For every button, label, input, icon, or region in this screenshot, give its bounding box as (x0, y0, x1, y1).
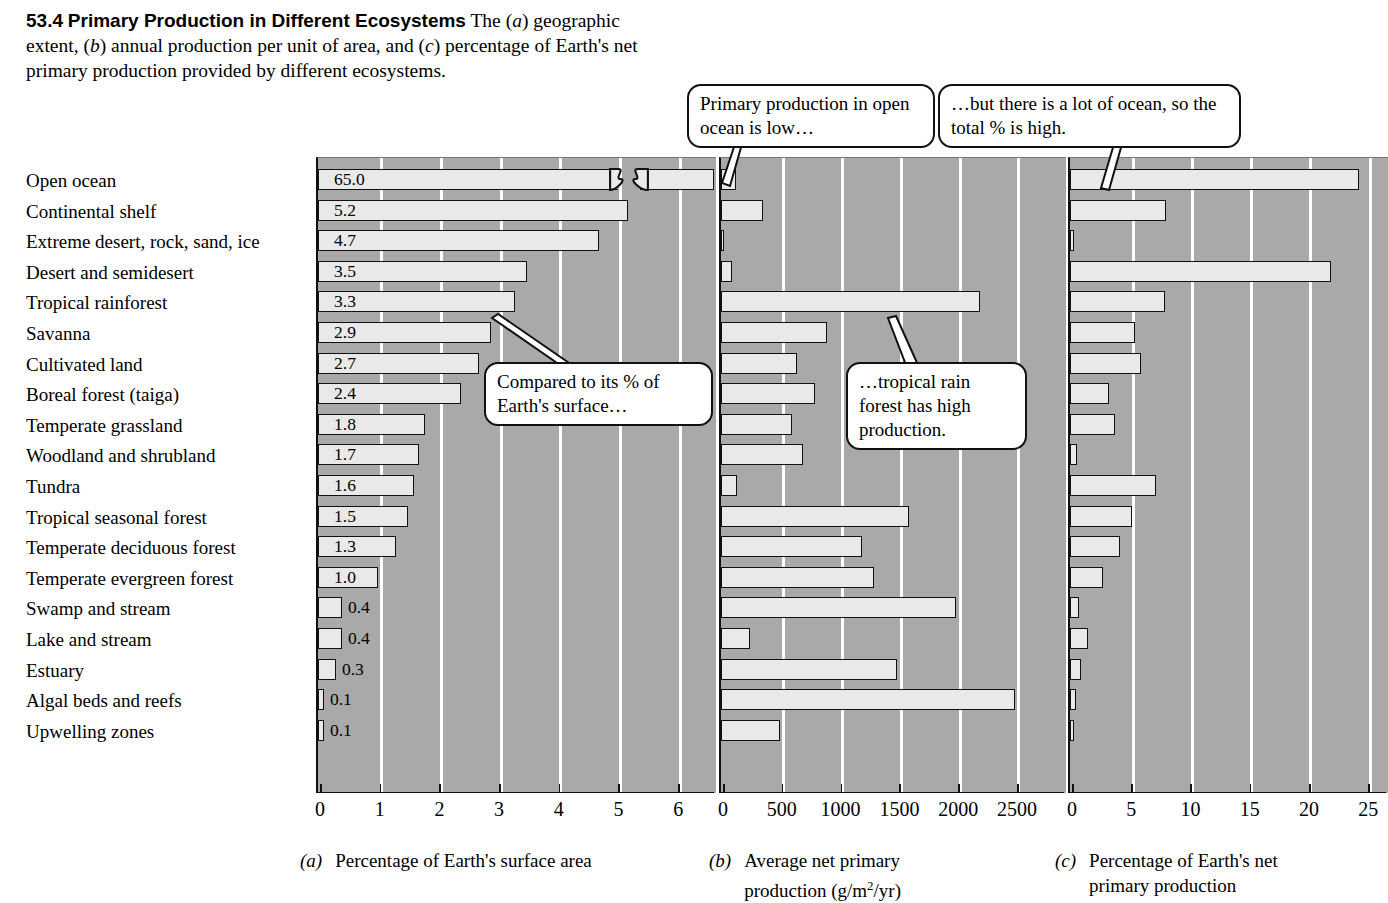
leader-compared-to-surface (492, 314, 572, 365)
callout-compared-to-surface: Compared to its % of Earth's surface… (484, 362, 713, 426)
leader-open-ocean-low (722, 144, 742, 186)
callout-open-ocean-low: Primary production in open ocean is low… (687, 84, 935, 148)
leader-rainforest-high (888, 316, 918, 365)
callout-lot-of-ocean: …but there is a lot of ocean, so the tot… (938, 84, 1241, 148)
leader-lot-of-ocean (1101, 144, 1122, 190)
callout-rainforest-high: …tropical rain forest has high productio… (846, 362, 1027, 450)
